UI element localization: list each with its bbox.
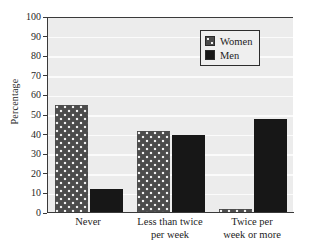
bar-men-0	[90, 189, 123, 213]
x-axis-line	[47, 212, 294, 213]
women-dotted-swatch-icon	[205, 36, 215, 46]
bar-men-2	[254, 119, 287, 213]
y-tick-label: 0	[36, 208, 41, 218]
y-tick-label: 40	[31, 130, 41, 140]
x-label-line: Less than twice	[129, 216, 211, 229]
legend: Women Men	[200, 30, 260, 66]
y-tick-label: 10	[31, 188, 41, 198]
x-label-line: Never	[47, 216, 129, 229]
legend-label-women: Women	[220, 36, 252, 47]
y-tick-label: 90	[31, 32, 41, 42]
y-tick-label: 70	[31, 71, 41, 81]
gridline	[48, 96, 293, 98]
bar-women-1	[137, 131, 170, 213]
x-axis-labels: NeverLess than twiceper weekTwice perwee…	[47, 216, 294, 252]
gridline	[48, 76, 293, 78]
x-label-1: Less than twiceper week	[129, 216, 211, 241]
x-label-line: week or more	[211, 229, 293, 242]
x-label-line: per week	[129, 229, 211, 242]
y-tick-label: 80	[31, 51, 41, 61]
legend-item-men[interactable]: Men	[205, 48, 252, 62]
legend-item-women[interactable]: Women	[205, 34, 252, 48]
y-tick-label: 50	[31, 110, 41, 120]
men-solid-swatch-icon	[205, 50, 215, 60]
bar-men-1	[172, 135, 205, 213]
bar-chart: Percentage 1009080706050403020100 Women …	[0, 0, 310, 252]
y-tick-label: 20	[31, 169, 41, 179]
x-label-0: Never	[47, 216, 129, 229]
x-label-2: Twice perweek or more	[211, 216, 293, 241]
x-label-line: Twice per	[211, 216, 293, 229]
legend-label-men: Men	[220, 50, 239, 61]
y-tick-label: 60	[31, 90, 41, 100]
y-axis-ticks: 1009080706050403020100	[0, 12, 47, 224]
y-tick-label: 30	[31, 149, 41, 159]
bar-women-0	[55, 105, 88, 213]
y-tick-label: 100	[26, 12, 41, 22]
